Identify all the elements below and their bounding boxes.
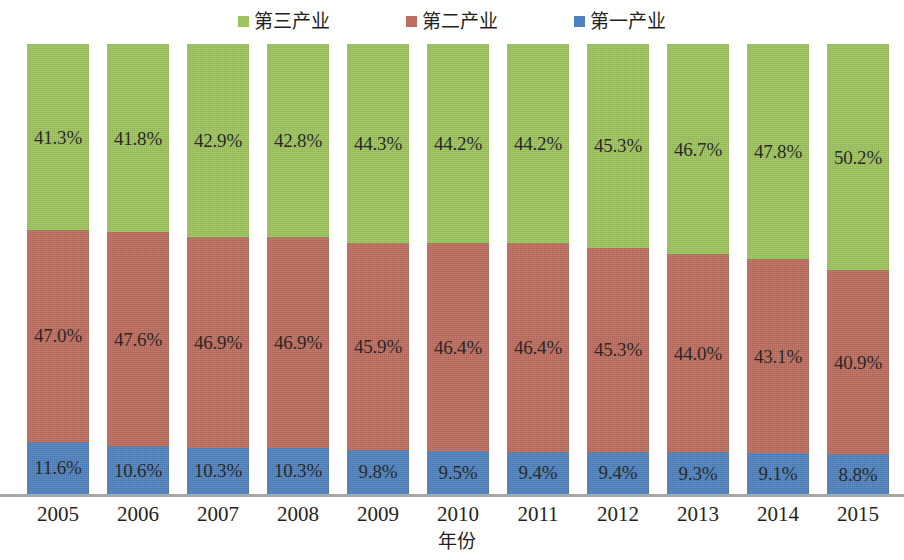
bar-group[interactable]: 44.2%46.4%9.4% — [507, 44, 569, 494]
bar-value-label: 8.8% — [839, 465, 878, 484]
bar-segment[interactable]: 9.8% — [347, 450, 409, 494]
bar-segment[interactable]: 46.4% — [427, 243, 489, 452]
legend-item-1[interactable]: 第二产业 — [406, 12, 498, 31]
bar-segment[interactable]: 9.1% — [747, 453, 809, 494]
legend-label: 第一产业 — [590, 12, 666, 31]
plot-area: 41.3%47.0%11.6%41.8%47.6%10.6%42.9%46.9%… — [0, 44, 904, 494]
legend-item-0[interactable]: 第三产业 — [238, 12, 330, 31]
x-axis-title: 年份 — [0, 530, 904, 554]
bar-value-label: 44.2% — [514, 134, 562, 153]
legend-swatch-icon — [406, 16, 417, 27]
x-tick-label: 2007 — [178, 500, 258, 528]
x-axis-tick-labels: 2005200620072008200920102011201220132014… — [0, 500, 904, 530]
bar-segment[interactable]: 46.4% — [507, 243, 569, 452]
bar-value-label: 9.4% — [599, 463, 638, 482]
bar-value-label: 40.9% — [834, 353, 882, 372]
x-tick-label: 2011 — [498, 500, 578, 528]
bar-segment[interactable]: 44.3% — [347, 44, 409, 243]
bar-group[interactable]: 42.9%46.9%10.3% — [187, 44, 249, 494]
x-tick-label: 2014 — [738, 500, 818, 528]
bar-segment[interactable]: 47.0% — [27, 230, 89, 442]
bar-value-label: 44.2% — [434, 134, 482, 153]
bar-segment[interactable]: 44.2% — [507, 44, 569, 243]
bar-value-label: 46.9% — [274, 333, 322, 352]
bar-value-label: 9.3% — [679, 464, 718, 483]
legend-swatch-icon — [574, 16, 585, 27]
legend-swatch-icon — [238, 16, 249, 27]
bar-value-label: 46.4% — [514, 338, 562, 357]
bar-segment[interactable]: 44.0% — [667, 254, 729, 452]
bar-segment[interactable]: 42.9% — [187, 44, 249, 237]
bar-value-label: 44.3% — [354, 134, 402, 153]
bar-segment[interactable]: 10.6% — [107, 446, 169, 494]
bar-segment[interactable]: 10.3% — [267, 448, 329, 494]
bar-segment[interactable]: 8.8% — [827, 454, 889, 494]
bar-value-label: 9.8% — [359, 462, 398, 481]
bar-value-label: 9.4% — [519, 463, 558, 482]
bar-segment[interactable]: 46.9% — [187, 237, 249, 448]
bar-segment[interactable]: 46.9% — [267, 237, 329, 448]
bar-value-label: 46.4% — [434, 338, 482, 357]
bar-value-label: 46.7% — [674, 140, 722, 159]
bar-value-label: 47.0% — [34, 326, 82, 345]
bar-group[interactable]: 44.3%45.9%9.8% — [347, 44, 409, 494]
bar-segment[interactable]: 47.6% — [107, 232, 169, 446]
bar-value-label: 11.6% — [34, 458, 81, 477]
bar-value-label: 42.9% — [194, 131, 242, 150]
bar-segment[interactable]: 41.3% — [27, 44, 89, 230]
bar-segment[interactable]: 45.3% — [587, 248, 649, 452]
bar-segment[interactable]: 45.9% — [347, 243, 409, 450]
legend-label: 第三产业 — [254, 12, 330, 31]
chart-legend: 第三产业第二产业第一产业 — [0, 8, 904, 34]
stacked-bar-chart: 第三产业第二产业第一产业 41.3%47.0%11.6%41.8%47.6%10… — [0, 0, 904, 560]
bar-segment[interactable]: 9.5% — [427, 451, 489, 494]
bar-segment[interactable]: 11.6% — [27, 442, 89, 494]
bar-segment[interactable]: 10.3% — [187, 448, 249, 494]
bar-value-label: 9.1% — [759, 464, 798, 483]
bar-segment[interactable]: 40.9% — [827, 270, 889, 454]
bar-value-label: 42.8% — [274, 131, 322, 150]
bar-segment[interactable]: 9.4% — [587, 452, 649, 494]
bar-value-label: 44.0% — [674, 344, 722, 363]
bar-segment[interactable]: 50.2% — [827, 44, 889, 270]
x-tick-label: 2009 — [338, 500, 418, 528]
bar-segment[interactable]: 41.8% — [107, 44, 169, 232]
bar-group[interactable]: 50.2%40.9%8.8% — [827, 44, 889, 494]
bar-segment[interactable]: 9.3% — [667, 452, 729, 494]
bar-group[interactable]: 46.7%44.0%9.3% — [667, 44, 729, 494]
bar-group[interactable]: 44.2%46.4%9.5% — [427, 44, 489, 494]
bar-group[interactable]: 42.8%46.9%10.3% — [267, 44, 329, 494]
bar-value-label: 46.9% — [194, 333, 242, 352]
x-tick-label: 2008 — [258, 500, 338, 528]
bar-value-label: 50.2% — [834, 148, 882, 167]
bar-value-label: 45.9% — [354, 337, 402, 356]
x-tick-label: 2015 — [818, 500, 898, 528]
bar-segment[interactable]: 43.1% — [747, 259, 809, 453]
bar-value-label: 41.8% — [114, 129, 162, 148]
bar-value-label: 9.5% — [439, 463, 478, 482]
bar-segment[interactable]: 9.4% — [507, 452, 569, 494]
bar-value-label: 47.6% — [114, 330, 162, 349]
bar-group[interactable]: 47.8%43.1%9.1% — [747, 44, 809, 494]
bar-value-label: 41.3% — [34, 128, 82, 147]
legend-item-2[interactable]: 第一产业 — [574, 12, 666, 31]
bar-value-label: 10.3% — [194, 461, 242, 480]
bar-segment[interactable]: 44.2% — [427, 44, 489, 243]
bar-value-label: 45.3% — [594, 136, 642, 155]
bar-segment[interactable]: 46.7% — [667, 44, 729, 254]
bar-value-label: 43.1% — [754, 347, 802, 366]
bar-segment[interactable]: 45.3% — [587, 44, 649, 248]
bar-value-label: 10.3% — [274, 461, 322, 480]
bar-segment[interactable]: 47.8% — [747, 44, 809, 259]
x-tick-label: 2010 — [418, 500, 498, 528]
x-tick-label: 2012 — [578, 500, 658, 528]
x-axis-title-text: 年份 — [438, 531, 476, 552]
bar-group[interactable]: 45.3%45.3%9.4% — [587, 44, 649, 494]
legend-label: 第二产业 — [422, 12, 498, 31]
x-tick-label: 2005 — [18, 500, 98, 528]
bar-value-label: 10.6% — [114, 461, 162, 480]
bar-group[interactable]: 41.3%47.0%11.6% — [27, 44, 89, 494]
x-tick-label: 2013 — [658, 500, 738, 528]
bar-segment[interactable]: 42.8% — [267, 44, 329, 237]
bar-group[interactable]: 41.8%47.6%10.6% — [107, 44, 169, 494]
